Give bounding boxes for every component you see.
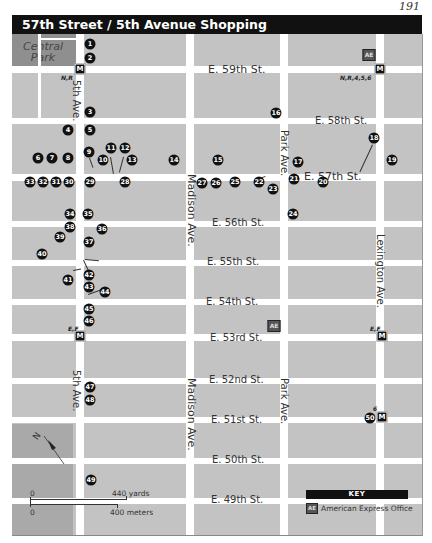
shop-pin-35[interactable]: 35 (83, 209, 94, 220)
shop-pin-29[interactable]: 29 (85, 177, 96, 188)
shop-pin-21[interactable]: 21 (289, 174, 300, 185)
street-label-57th: E. 57th St. (304, 170, 362, 183)
street-label-58th: E. 58th St. (315, 115, 367, 126)
subway-lines-label: N,R (61, 74, 73, 81)
subway-lines-label: N,R,4,5,6 (340, 74, 371, 81)
shop-pin-36[interactable]: 36 (97, 224, 108, 235)
avenue-label-park-upper: Park Ave. (279, 130, 290, 176)
key-item-amex: AE American Express Office (306, 503, 413, 514)
central-park-label: Central Park (18, 41, 68, 63)
shop-pin-14[interactable]: 14 (169, 155, 180, 166)
north-arrow-icon: N (30, 426, 70, 466)
shop-pin-27[interactable]: 27 (197, 178, 208, 189)
shop-pin-22[interactable]: 22 (254, 177, 265, 188)
shop-pin-34[interactable]: 34 (65, 209, 76, 220)
scale-yards-label: 440 yards (112, 489, 149, 498)
subway-lines-label: E,F (68, 325, 78, 332)
shop-pin-44[interactable]: 44 (100, 287, 111, 298)
street-label-51st: E. 51st St. (211, 414, 262, 425)
shop-pin-28[interactable]: 28 (120, 177, 131, 188)
shop-pin-32[interactable]: 32 (38, 177, 49, 188)
scale-tick (126, 496, 127, 500)
key-heading: KEY (306, 490, 408, 499)
shop-pin-40[interactable]: 40 (37, 249, 48, 260)
map-title: 57th Street / 5th Avenue Shopping (12, 15, 422, 34)
shop-pin-45[interactable]: 45 (84, 304, 95, 315)
shop-pin-31[interactable]: 31 (51, 177, 62, 188)
shop-pin-37[interactable]: 37 (84, 237, 95, 248)
shop-pin-38[interactable]: 38 (65, 222, 76, 233)
leader-line (89, 158, 93, 168)
leader-line (359, 145, 373, 173)
subway-station-icon[interactable]: M (75, 331, 86, 342)
shop-pin-12[interactable]: 12 (120, 143, 131, 154)
leader-line (110, 157, 114, 174)
shop-pin-17[interactable]: 17 (293, 157, 304, 168)
shop-pin-9[interactable]: 9 (84, 147, 95, 158)
key-item-label: American Express Office (321, 504, 413, 513)
shop-pin-3[interactable]: 3 (85, 107, 96, 118)
avenue-label-5th-lower: 5th Ave. (71, 370, 82, 411)
map-canvas: Central Park E. 59th St. E. 58th St. E. … (12, 34, 423, 536)
shop-pin-1[interactable]: 1 (85, 39, 96, 50)
shop-pin-43[interactable]: 43 (84, 282, 95, 293)
amex-office-icon[interactable]: AE (363, 49, 376, 61)
shop-pin-20[interactable]: 20 (318, 177, 329, 188)
scale-bar-meters (30, 504, 117, 505)
street-label-59th: E. 59th St. (208, 63, 266, 76)
scale-meters-zero: 0 (30, 508, 35, 517)
scale-tick (30, 497, 31, 507)
shop-pin-4[interactable]: 4 (63, 125, 74, 136)
shop-pin-19[interactable]: 19 (387, 155, 398, 166)
avenue-label-park-lower: Park Ave. (279, 378, 290, 424)
shop-pin-24[interactable]: 24 (288, 209, 299, 220)
shop-pin-25[interactable]: 25 (230, 177, 241, 188)
shop-pin-46[interactable]: 46 (84, 316, 95, 327)
scale-bar-yards (30, 499, 126, 500)
scale-meters-label: 400 meters (110, 508, 153, 517)
shop-pin-50[interactable]: 50 (365, 413, 376, 424)
svg-text:N: N (31, 430, 43, 441)
subway-station-icon[interactable]: M (75, 64, 86, 75)
shop-pin-10[interactable]: 10 (98, 155, 109, 166)
subway-station-icon[interactable]: M (377, 331, 388, 342)
shop-pin-5[interactable]: 5 (85, 125, 96, 136)
shop-pin-26[interactable]: 26 (211, 178, 222, 189)
shop-pin-49[interactable]: 49 (86, 475, 97, 486)
shop-pin-15[interactable]: 15 (213, 155, 224, 166)
shop-pin-18[interactable]: 18 (369, 133, 380, 144)
avenue-label-lexington: Lexington Ave. (375, 234, 386, 308)
shop-pin-6[interactable]: 6 (33, 153, 44, 164)
street-label-50th: E. 50th St. (212, 454, 264, 465)
street-label-56th: E. 56th St. (212, 217, 264, 228)
shop-pin-41[interactable]: 41 (63, 275, 74, 286)
shop-pin-7[interactable]: 7 (47, 153, 58, 164)
shop-pin-2[interactable]: 2 (85, 53, 96, 64)
street-label-52nd: E. 52nd St. (209, 374, 264, 385)
subway-station-icon[interactable]: M (375, 64, 386, 75)
shop-pin-42[interactable]: 42 (84, 270, 95, 281)
park-path-horizontal (38, 38, 76, 40)
shop-pin-8[interactable]: 8 (63, 153, 74, 164)
amex-office-icon[interactable]: AE (268, 320, 281, 332)
shop-pin-48[interactable]: 48 (85, 395, 96, 406)
shop-pin-13[interactable]: 13 (127, 155, 138, 166)
park-path-vertical (38, 34, 41, 124)
shop-pin-33[interactable]: 33 (25, 177, 36, 188)
subway-station-icon[interactable]: M (377, 412, 388, 423)
shop-pin-23[interactable]: 23 (268, 184, 279, 195)
street-label-53rd: E. 53rd St. (210, 332, 262, 343)
shop-pin-16[interactable]: 16 (271, 108, 282, 119)
leader-line (119, 157, 124, 173)
avenue-label-madison-lower: Madison Ave. (185, 378, 198, 451)
shop-pin-30[interactable]: 30 (64, 177, 75, 188)
subway-lines-label: 6 (373, 405, 377, 412)
shop-pin-47[interactable]: 47 (85, 382, 96, 393)
shop-pin-39[interactable]: 39 (55, 232, 66, 243)
shop-pin-11[interactable]: 11 (106, 143, 117, 154)
street-label-55th: E. 55th St. (207, 256, 259, 267)
amex-office-icon: AE (306, 503, 318, 514)
street-label-54th: E. 54th St. (206, 296, 258, 307)
avenue-label-5th-upper: 5th Ave. (71, 80, 82, 121)
subway-lines-label: E,F (370, 325, 380, 332)
